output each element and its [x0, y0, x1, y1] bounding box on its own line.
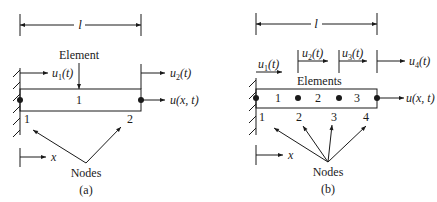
- node-dot: [374, 95, 380, 101]
- length-label: l: [78, 17, 82, 32]
- diagram-b: [249, 13, 405, 165]
- axis-label: x: [287, 148, 294, 162]
- field-label: u(x, t): [406, 91, 435, 105]
- fixed-wall: [249, 78, 256, 135]
- length-label: l: [314, 16, 318, 31]
- displacement-u4: u4(t): [409, 54, 430, 70]
- element-number: 3: [354, 91, 360, 105]
- diagram-a-labels: l Element 1 u1(t) u2(t) u(x, t) 1 2 x No…: [24, 17, 199, 197]
- node-dot: [253, 95, 259, 101]
- node-dot: [138, 97, 144, 103]
- caption-b: (b): [321, 182, 335, 196]
- elements-label: Elements: [297, 74, 342, 88]
- node-number: 3: [331, 110, 337, 124]
- element-number: 1: [275, 91, 281, 105]
- node-number: 4: [363, 110, 369, 124]
- diagram-b-labels: l Elements 1 2 3 u1(t) u2(t) u3(t) u4(t)…: [258, 16, 435, 196]
- node-dot: [336, 95, 342, 101]
- node-number: 1: [259, 110, 265, 124]
- nodes-label: Nodes: [313, 165, 344, 179]
- nodes-label: Nodes: [71, 166, 102, 180]
- displacement-u1: u1(t): [52, 66, 73, 82]
- node-number: 2: [296, 110, 302, 124]
- node-number: 2: [127, 112, 133, 126]
- caption-a: (a): [79, 183, 92, 197]
- field-label: u(x, t): [170, 93, 199, 107]
- displacement-u2: u2(t): [170, 66, 191, 82]
- finite-element-bar-diagrams: l Element 1 u1(t) u2(t) u(x, t) 1 2 x No…: [0, 0, 437, 202]
- axis-label: x: [50, 150, 57, 164]
- node-dot: [295, 95, 301, 101]
- diagram-a: [13, 14, 165, 167]
- node-dot: [17, 97, 23, 103]
- element-number: 2: [315, 91, 321, 105]
- node-number: 1: [24, 112, 30, 126]
- displacement-u3: u3(t): [342, 46, 363, 62]
- element-label: Element: [59, 48, 100, 62]
- displacement-u2: u2(t): [302, 46, 323, 62]
- displacement-u1: u1(t): [258, 57, 279, 73]
- element-number: 1: [76, 93, 82, 107]
